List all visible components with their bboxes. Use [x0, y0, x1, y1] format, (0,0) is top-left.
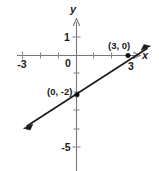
x-tick-label-neg3: -3: [17, 58, 26, 70]
point-label-3-0: (3, 0): [108, 40, 130, 51]
origin-label: 0: [65, 57, 71, 69]
y-axis-label: y: [69, 3, 77, 15]
y-tick-label-1: 1: [64, 31, 70, 43]
point-label-0-neg2: (0, -2): [47, 86, 72, 97]
x-axis-label: x: [141, 49, 149, 61]
point-marker-0-neg2: [75, 93, 80, 98]
x-axis-group: [17, 52, 140, 60]
point-marker-3-0: [126, 53, 131, 58]
y-tick-label-neg5: -5: [61, 141, 70, 153]
coordinate-plane-figure: y x 0 -3 3 1 -5 (3, 0) (0, -2): [0, 0, 159, 171]
plotted-line-group: [24, 45, 151, 130]
x-tick-label-3: 3: [128, 60, 134, 72]
